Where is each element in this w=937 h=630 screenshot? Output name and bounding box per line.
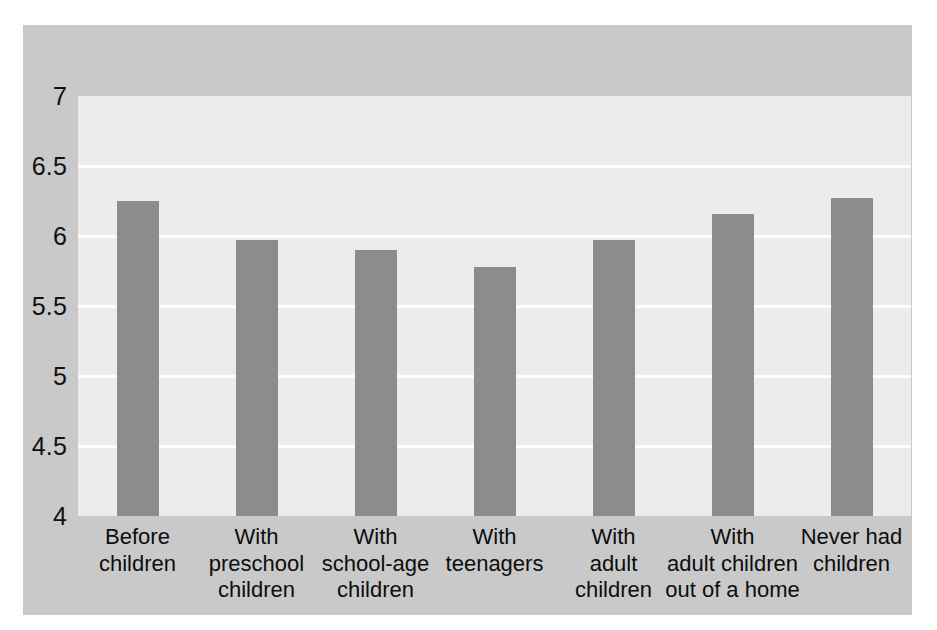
bar bbox=[593, 240, 635, 516]
y-axis-tick-label: 5.5 bbox=[32, 292, 78, 321]
y-axis-tick-label: 6.5 bbox=[32, 152, 78, 181]
bar bbox=[355, 250, 397, 516]
bar bbox=[117, 201, 159, 516]
gridline bbox=[78, 165, 911, 168]
chart-figure: 76.565.554.54 Before childrenWith presch… bbox=[23, 25, 912, 615]
bar bbox=[831, 198, 873, 516]
y-axis-tick-label: 5 bbox=[53, 362, 78, 391]
bar bbox=[474, 267, 516, 516]
x-axis-category-label: Never had children bbox=[777, 524, 927, 577]
bar bbox=[712, 214, 754, 516]
y-axis-tick-label: 7 bbox=[53, 82, 78, 111]
y-axis-tick-label: 6 bbox=[53, 222, 78, 251]
bar bbox=[236, 240, 278, 516]
plot-area: 76.565.554.54 Before childrenWith presch… bbox=[78, 96, 911, 516]
gridline bbox=[78, 235, 911, 238]
y-axis-tick-label: 4.5 bbox=[32, 432, 78, 461]
